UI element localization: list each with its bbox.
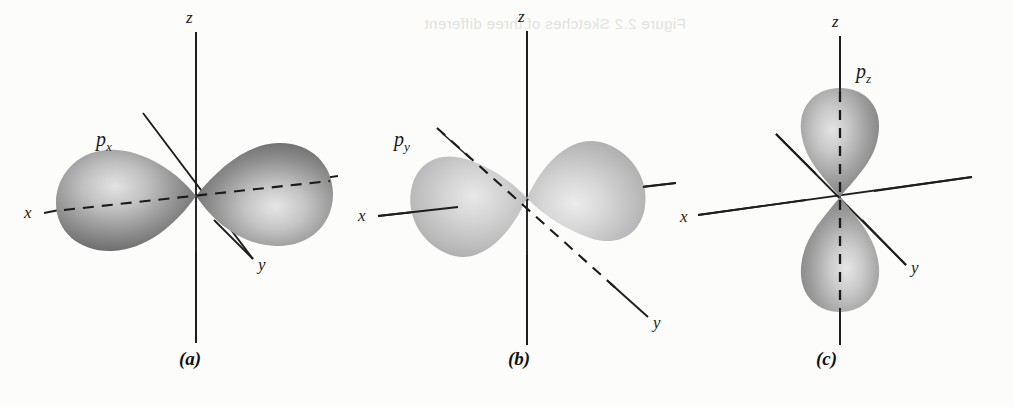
axis-label-z: z <box>186 8 193 28</box>
orbital-label-px-base: p <box>96 128 106 150</box>
panel-b: z x y py (b) <box>338 0 676 407</box>
orbital-lobe-y-positive <box>410 156 527 257</box>
orbital-lobe-y-negative <box>527 141 646 241</box>
axis-line-x-front-right <box>643 183 676 187</box>
orbital-label-leader-line <box>442 133 471 159</box>
panel-caption-c: (c) <box>816 348 837 370</box>
panel-caption-b: (b) <box>508 348 530 370</box>
panel-a-graphic <box>0 0 338 407</box>
axis-line-x-front-left <box>698 200 806 215</box>
orbital-label-pz-subscript: z <box>866 71 871 86</box>
orbital-lobe-x-positive <box>196 143 333 246</box>
orbital-label-py-subscript: y <box>404 139 410 154</box>
orbital-lobe-x-negative <box>56 150 196 251</box>
axis-line-y-solid <box>610 283 648 317</box>
axis-label-x: x <box>24 203 32 223</box>
axis-line-x-front-right <box>874 177 972 191</box>
axis-label-z: z <box>832 12 839 32</box>
panel-c-graphic <box>676 0 1013 407</box>
axis-label-y: y <box>911 258 919 278</box>
orbital-label-py: py <box>394 128 410 155</box>
panel-c: z x y pz (c) <box>676 0 1013 407</box>
orbital-label-px: px <box>96 128 112 155</box>
p-orbital-figure: Figure 2.2 Sketches of three different <box>0 0 1013 407</box>
orbital-label-pz-base: p <box>856 60 866 82</box>
orbital-label-px-subscript: x <box>106 139 112 154</box>
orbital-lobe-z-positive <box>801 88 879 197</box>
panel-b-graphic <box>338 0 676 407</box>
panel-caption-a: (a) <box>179 348 201 370</box>
axis-label-y: y <box>258 255 266 275</box>
orbital-label-py-base: p <box>394 128 404 150</box>
axis-label-x: x <box>358 206 366 226</box>
orbital-label-pz: pz <box>856 60 871 87</box>
axis-label-x: x <box>680 207 688 227</box>
axis-label-y: y <box>653 313 661 333</box>
axis-label-z: z <box>518 7 525 27</box>
panel-a: z x y px (a) <box>0 0 338 407</box>
